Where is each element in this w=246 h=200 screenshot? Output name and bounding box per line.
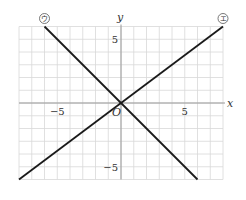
circled-label-u: ウ: [40, 14, 50, 24]
svg-text:ウ: ウ: [41, 15, 48, 23]
x-tick-label: −5: [50, 106, 65, 117]
origin-label: O: [112, 106, 121, 119]
y-tick-label: 5: [112, 34, 118, 45]
y-axis-label: y: [116, 11, 124, 24]
svg-text:エ: エ: [220, 15, 227, 23]
x-axis-label: x: [227, 97, 234, 110]
y-tick-label: −5: [103, 162, 118, 173]
circled-label-e: エ: [218, 14, 228, 24]
coordinate-plane: −555−5 ウエ x y O: [0, 0, 246, 200]
x-tick-label: 5: [182, 106, 188, 117]
graph-lines: ウエ: [19, 14, 228, 180]
